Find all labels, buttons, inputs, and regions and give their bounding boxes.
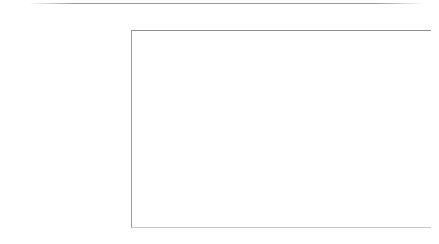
top-divider [28, 3, 424, 4]
plot-frame [131, 31, 431, 228]
category-axis-labels [0, 31, 131, 228]
bar-chart [0, 0, 439, 244]
plot-area [131, 31, 431, 228]
